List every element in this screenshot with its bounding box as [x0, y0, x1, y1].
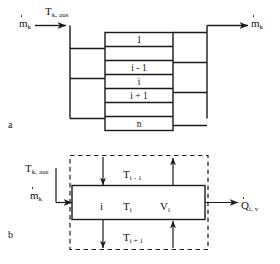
panel-b-inlet-massflow-label: mk: [30, 186, 42, 202]
panel-a-inlet-temperature-label: Tk, aus: [45, 2, 69, 18]
panel-b-cell-index-label: i: [100, 197, 103, 213]
panel-b-cell-box: [72, 186, 205, 220]
panel-a-right-manifold: [173, 26, 207, 126]
panel-b-neighbour-below-label: Ti + 1: [123, 228, 143, 244]
panel-a-stack-row-i-plus-1: i + 1: [105, 92, 173, 102]
panel-b-cell-temperature-label: Ti: [123, 197, 132, 213]
panel-b-neighbour-above-label: Ti - 1: [123, 165, 142, 181]
panel-b-heat-flow-label: Qi, v: [241, 196, 258, 212]
panel-b-cell-volume-label: Vi: [160, 197, 170, 213]
panel-a-outlet-massflow-label: mk: [251, 14, 263, 30]
panel-b-graphics: [56, 156, 238, 250]
panel-b-inlet-temperature-label: Tk, aus: [25, 159, 49, 175]
panel-a-stack-row-1: 1: [105, 36, 173, 46]
panel-a-tag: a: [8, 120, 12, 130]
panel-a-stack-row-n: n: [105, 120, 173, 130]
panel-a-stack-row-i: i: [105, 78, 173, 88]
panel-b-tag: b: [8, 230, 13, 240]
panel-a-inlet-massflow-label: mk: [19, 14, 31, 30]
figure-container: mk Tk, aus mk 1 i - 1 i i + 1 n a Tk, au…: [0, 0, 280, 264]
panel-a-stack-row-i-minus-1: i - 1: [105, 64, 173, 74]
panel-a-left-manifold: [70, 26, 105, 119]
